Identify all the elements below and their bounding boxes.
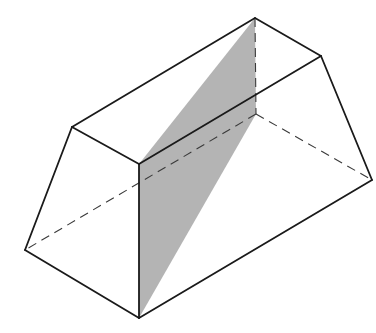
edge-AE bbox=[25, 127, 72, 250]
prism-diagram bbox=[0, 0, 376, 333]
edge-GC bbox=[321, 56, 372, 180]
edge-BC bbox=[255, 18, 321, 56]
cross-section-face bbox=[139, 18, 256, 318]
edge-DA bbox=[72, 127, 139, 164]
hidden-edge-HG bbox=[256, 114, 372, 180]
shaded-cross-section bbox=[139, 18, 256, 318]
edge-EF bbox=[25, 250, 139, 318]
